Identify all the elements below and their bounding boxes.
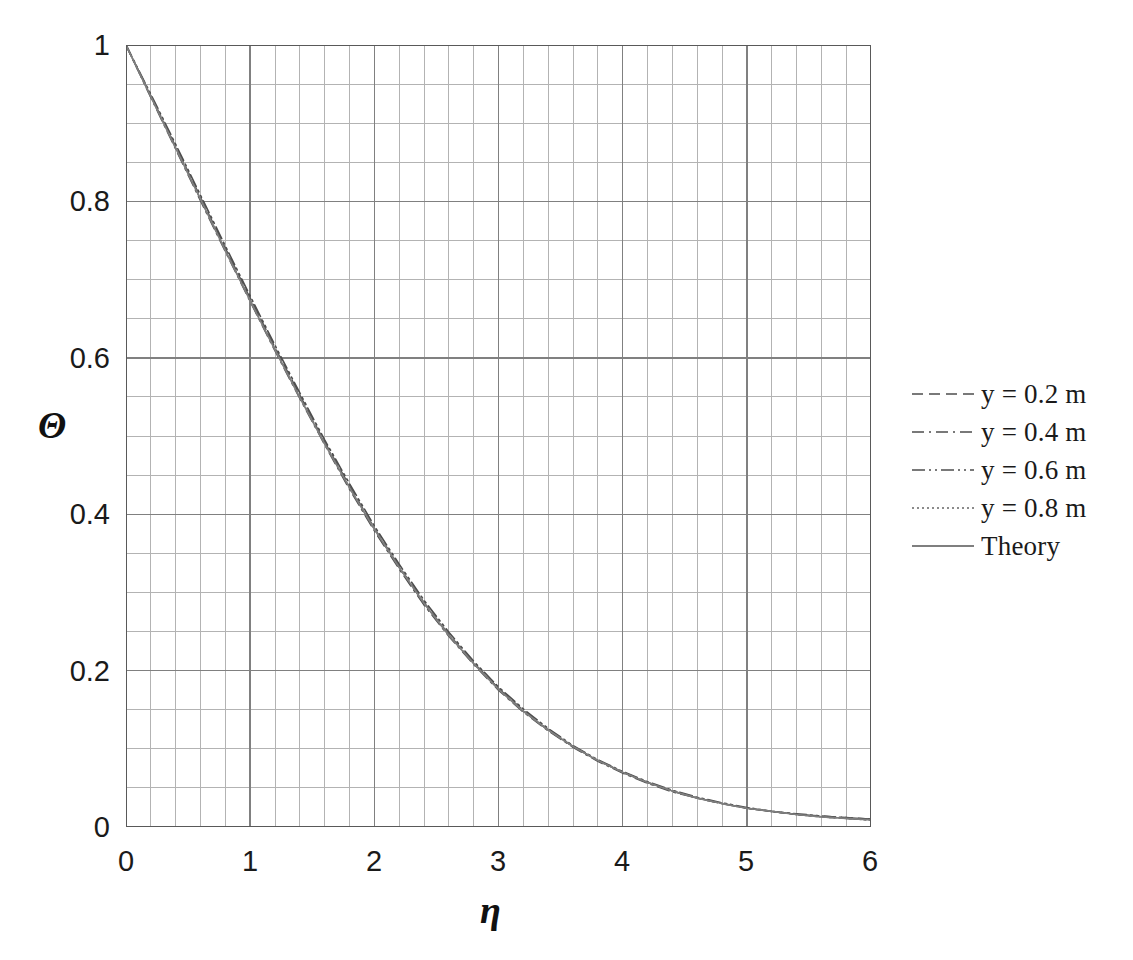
y-axis-title: Θ bbox=[38, 404, 66, 447]
y-tick-label-0: 0 bbox=[20, 811, 110, 844]
legend-line-swatch bbox=[912, 425, 974, 439]
series-curve-5 bbox=[126, 45, 871, 820]
legend-line-swatch bbox=[912, 501, 974, 515]
chart-figure: 1 0.8 0.6 0.4 0.2 0 0 1 2 3 4 5 6 Θ η y … bbox=[0, 0, 1133, 960]
legend-item-label: y = 0.8 m bbox=[981, 493, 1087, 524]
y-tick-label-1: 1 bbox=[20, 29, 110, 62]
x-tick-label-3: 3 bbox=[468, 845, 528, 878]
series-curve-4 bbox=[126, 45, 871, 820]
series-curve-2 bbox=[126, 45, 871, 820]
legend-line-swatch bbox=[912, 387, 974, 401]
x-axis-title: η bbox=[480, 888, 501, 932]
x-tick-label-1: 1 bbox=[220, 845, 280, 878]
series-curve-3 bbox=[126, 45, 871, 819]
legend-item-5[interactable]: Theory bbox=[912, 527, 1122, 565]
y-tick-label-0.8: 0.8 bbox=[20, 185, 110, 218]
legend-line-swatch bbox=[912, 463, 974, 477]
legend-item-1[interactable]: y = 0.2 m bbox=[912, 375, 1122, 413]
legend-line-swatch bbox=[912, 539, 974, 553]
legend-item-label: y = 0.6 m bbox=[981, 455, 1087, 486]
x-tick-label-5: 5 bbox=[716, 845, 776, 878]
legend-item-3[interactable]: y = 0.6 m bbox=[912, 451, 1122, 489]
x-tick-label-2: 2 bbox=[344, 845, 404, 878]
chart-legend: y = 0.2 my = 0.4 my = 0.6 my = 0.8 mTheo… bbox=[912, 375, 1122, 565]
legend-item-label: y = 0.4 m bbox=[981, 417, 1087, 448]
legend-item-label: Theory bbox=[981, 531, 1060, 562]
x-tick-label-0: 0 bbox=[96, 845, 156, 878]
plot-area bbox=[126, 45, 871, 827]
y-tick-label-0.2: 0.2 bbox=[20, 655, 110, 688]
y-tick-label-0.4: 0.4 bbox=[20, 498, 110, 531]
legend-item-2[interactable]: y = 0.4 m bbox=[912, 413, 1122, 451]
legend-item-label: y = 0.2 m bbox=[981, 379, 1087, 410]
x-tick-label-4: 4 bbox=[592, 845, 652, 878]
data-curves bbox=[126, 45, 871, 827]
series-curve-1 bbox=[126, 45, 871, 819]
y-tick-label-0.6: 0.6 bbox=[20, 342, 110, 375]
legend-item-4[interactable]: y = 0.8 m bbox=[912, 489, 1122, 527]
x-tick-label-6: 6 bbox=[840, 845, 900, 878]
